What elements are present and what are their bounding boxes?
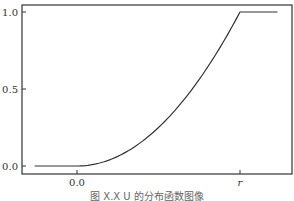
y-tick-label: 1.0: [2, 7, 18, 18]
y-tick-label: 0.5: [2, 84, 18, 95]
x-axis-ticks: 0.0r: [69, 170, 244, 188]
plot-frame: [22, 5, 292, 174]
figure-caption: 图 X.X U 的分布函数图像: [0, 188, 294, 201]
x-tick-label: 0.0: [69, 177, 85, 188]
cdf-curve: [35, 12, 278, 166]
cdf-chart: 0.00.51.0 0.0r: [0, 0, 294, 201]
x-tick-label: r: [238, 177, 244, 188]
y-tick-label: 0.0: [2, 161, 18, 172]
